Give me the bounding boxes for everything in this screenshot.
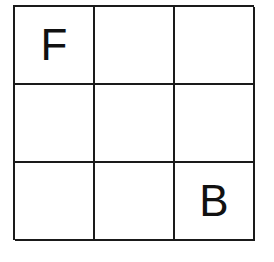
cell-r1-c3	[175, 7, 255, 85]
grid-3x3: F B	[13, 5, 254, 240]
cell-r1-c1: F	[15, 7, 95, 85]
cell-r3-c1	[15, 163, 95, 241]
cell-r2-c3	[175, 85, 255, 163]
cell-r3-c2	[95, 163, 175, 241]
cell-r2-c1	[15, 85, 95, 163]
cell-r2-c2	[95, 85, 175, 163]
cell-r1-c2	[95, 7, 175, 85]
cell-r3-c3: B	[175, 163, 255, 241]
